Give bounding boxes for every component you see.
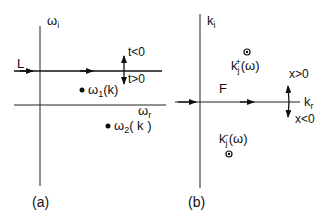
diagram-canvas — [0, 0, 332, 223]
x-negative-label: x<0 — [295, 113, 315, 126]
axis-k-r-label: kr — [304, 95, 314, 110]
pole-omega1-label: ω1(k) — [88, 83, 118, 98]
pole-argument: (k) — [103, 82, 118, 97]
contour-L-label: L — [17, 57, 24, 70]
root-kminus-marker — [226, 151, 232, 157]
pole-omega1-marker — [80, 88, 85, 93]
axis-symbol: k — [207, 13, 214, 28]
x-positive-label: x>0 — [289, 68, 309, 81]
t-negative-label: t<0 — [128, 46, 145, 59]
root-kplus-marker — [244, 49, 250, 55]
root-argument: (ω) — [241, 58, 260, 73]
pole-subscript: 1 — [98, 89, 103, 99]
pole-argument: ( k ) — [129, 118, 151, 133]
root-superscript: + — [236, 57, 241, 67]
pole-symbol: ω — [88, 82, 98, 97]
pole-omega2-marker — [106, 124, 111, 129]
pole-omega2-label: ω2( k ) — [114, 119, 152, 134]
axis-omega-i-label: ωi — [47, 14, 59, 29]
pole-symbol: ω — [114, 118, 124, 133]
contour-F-label: F — [219, 82, 227, 95]
panel-b-axes — [175, 14, 300, 188]
axis-subscript: i — [57, 20, 59, 30]
axis-omega-r-label: ωr — [138, 104, 151, 119]
root-kminus-label: kj−(ω) — [219, 132, 248, 147]
axis-subscript: r — [311, 101, 314, 111]
axis-symbol: k — [304, 94, 311, 109]
axis-symbol: ω — [47, 13, 57, 28]
axis-subscript: i — [214, 20, 216, 30]
root-superscript: − — [224, 130, 229, 140]
caption-a: (a) — [32, 196, 49, 209]
caption-b: (b) — [188, 196, 205, 209]
axis-symbol: ω — [138, 103, 148, 118]
root-argument: (ω) — [229, 131, 248, 146]
t-positive-label: t>0 — [128, 73, 145, 86]
pole-subscript: 2 — [124, 125, 129, 135]
root-kplus-label: kj+(ω) — [231, 59, 260, 74]
axis-k-i-label: ki — [207, 14, 216, 29]
